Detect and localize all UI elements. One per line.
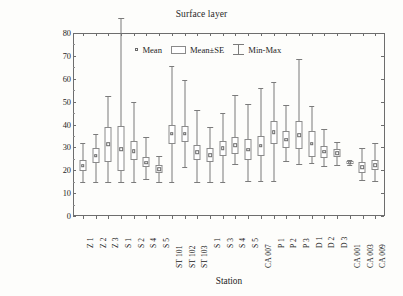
- mean-marker: [234, 144, 238, 148]
- mean-marker: [259, 144, 263, 148]
- whisker-cap-min: [156, 182, 162, 183]
- whisker-cap-min: [118, 182, 124, 183]
- whisker-cap-max: [233, 95, 239, 96]
- boxplot-item[interactable]: [102, 0, 115, 183]
- boxplot-item[interactable]: [127, 0, 140, 183]
- legend-label-mean: Mean: [142, 45, 162, 55]
- whisker-cap-min: [334, 165, 340, 166]
- whisker-cap-max: [334, 142, 340, 143]
- legend-label-mean-se: Mean±SE: [190, 45, 224, 55]
- x-axis-tick-label: D 2: [327, 237, 336, 248]
- y-axis-tick-label: 30: [45, 143, 71, 152]
- boxplot-item[interactable]: [318, 0, 331, 183]
- whisker-cap-min: [360, 180, 366, 181]
- x-axis-tick-label: ST 103: [200, 245, 209, 268]
- whisker-cap-min: [220, 182, 226, 183]
- x-axis-tick-label: CA 003: [366, 244, 375, 268]
- whisker-cap-max: [322, 129, 328, 130]
- boxplot-item[interactable]: [305, 0, 318, 183]
- boxplot-item[interactable]: [242, 0, 255, 183]
- whisker-cap-min: [309, 163, 315, 164]
- whisker-cap-min: [258, 181, 264, 182]
- boxplot-item[interactable]: [229, 0, 242, 183]
- x-axis-tick-mark: [134, 216, 135, 219]
- mean-marker: [157, 167, 161, 171]
- legend-label-min-max: Min-Max: [248, 45, 281, 55]
- x-axis-tick-label: P 1: [277, 238, 286, 248]
- whisker-cap-max: [131, 102, 137, 103]
- y-axis-tick-label: 10: [45, 189, 71, 198]
- mean-marker: [183, 132, 187, 136]
- boxplot-item[interactable]: [343, 0, 356, 183]
- y-axis-minor-tick: [73, 159, 75, 160]
- x-axis-tick-mark: [159, 216, 160, 219]
- x-axis-tick-label: CA 007: [264, 244, 273, 268]
- boxplot-item[interactable]: [331, 0, 344, 183]
- mean-marker: [221, 147, 225, 151]
- boxplot-item[interactable]: [166, 0, 179, 183]
- whisker-icon: [233, 44, 244, 55]
- mean-marker: [297, 133, 301, 137]
- x-axis-tick-mark: [350, 216, 351, 219]
- x-axis-tick-label: S 1: [213, 238, 222, 248]
- x-axis-tick-mark: [324, 216, 325, 219]
- x-axis-tick-mark: [363, 216, 364, 219]
- y-axis-tick-label: 60: [45, 74, 71, 83]
- whisker-line: [260, 88, 261, 181]
- mean-marker: [310, 142, 314, 146]
- box-icon: [171, 46, 186, 54]
- x-axis-tick-label: Z 2: [99, 237, 108, 248]
- x-axis-tick-label: S 5: [162, 238, 171, 248]
- boxplot-item[interactable]: [267, 0, 280, 183]
- y-axis-minor-tick: [73, 182, 75, 183]
- boxplot-item[interactable]: [153, 0, 166, 183]
- chart-legend: Mean Mean±SE Min-Max: [135, 44, 281, 55]
- x-axis-tick-label: ST 102: [188, 245, 197, 268]
- boxplot-item[interactable]: [191, 0, 204, 183]
- mean-marker: [208, 154, 212, 158]
- whisker-cap-max: [93, 134, 99, 135]
- boxplot-item[interactable]: [280, 0, 293, 183]
- whisker-cap-min: [296, 164, 302, 165]
- boxplot-item[interactable]: [204, 0, 217, 183]
- whisker-cap-max: [309, 106, 315, 107]
- mean-marker: [195, 151, 199, 155]
- y-axis-tick-mark-right: [381, 193, 384, 194]
- whisker-cap-max: [118, 18, 124, 19]
- boxplot-item[interactable]: [77, 0, 90, 183]
- whisker-cap-min: [93, 182, 99, 183]
- whisker-cap-max: [106, 96, 112, 97]
- boxplot-item[interactable]: [140, 0, 153, 183]
- boxplot-item[interactable]: [89, 0, 102, 183]
- boxplot-item[interactable]: [369, 0, 382, 183]
- whisker-cap-min: [372, 181, 378, 182]
- whisker-cap-min: [194, 182, 200, 183]
- x-axis-tick-label: S 5: [251, 238, 260, 248]
- y-axis-tick-label: 80: [45, 29, 71, 38]
- x-axis-label: Station: [73, 276, 385, 286]
- mean-marker: [348, 161, 352, 165]
- boxplot-item[interactable]: [216, 0, 229, 183]
- y-axis-tick-mark: [73, 216, 76, 217]
- whisker-cap-max: [169, 66, 175, 67]
- mean-marker: [246, 148, 250, 152]
- y-axis-tick-label: 40: [45, 120, 71, 129]
- boxplot-item[interactable]: [293, 0, 306, 183]
- whisker-cap-max: [372, 143, 378, 144]
- x-axis-tick-mark: [223, 216, 224, 219]
- whisker-cap-max: [296, 59, 302, 60]
- x-axis-tick-label: D 3: [340, 237, 349, 248]
- y-axis-minor-tick: [73, 205, 75, 206]
- boxplot-item[interactable]: [356, 0, 369, 183]
- mean-marker: [81, 164, 85, 168]
- x-axis-tick-label: Z 1: [86, 237, 95, 248]
- boxplot-item[interactable]: [115, 0, 128, 183]
- boxplot-item[interactable]: [254, 0, 267, 183]
- y-axis-tick-mark: [73, 147, 76, 148]
- mean-marker: [323, 150, 327, 154]
- y-axis-tick-mark: [73, 56, 76, 57]
- boxplot-item[interactable]: [178, 0, 191, 183]
- whisker-cap-max: [156, 156, 162, 157]
- whisker-cap-min: [207, 182, 213, 183]
- whisker-cap-max: [220, 113, 226, 114]
